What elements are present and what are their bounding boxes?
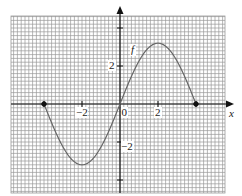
y-tick-label-neg2: −2 bbox=[121, 140, 133, 152]
y-tick-label-2: 2 bbox=[109, 59, 115, 71]
x-tick-label-neg2: −2 bbox=[76, 106, 88, 118]
function-graph: −2 0 2 2 −2 f x bbox=[0, 0, 242, 196]
endpoint-dot bbox=[194, 102, 199, 107]
origin-label: 0 bbox=[122, 106, 128, 118]
endpoint-dot bbox=[42, 102, 47, 107]
x-tick-label-2: 2 bbox=[155, 106, 161, 118]
x-axis-label: x bbox=[228, 107, 234, 119]
y-axis-arrow-icon bbox=[117, 6, 124, 14]
